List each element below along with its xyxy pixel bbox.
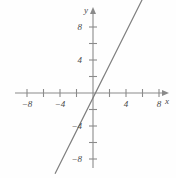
plot-area: −8 −4 4 8 8 4 −4 −8 y x bbox=[0, 0, 176, 178]
x-tick-label--4: −4 bbox=[55, 99, 66, 109]
x-axis-label: x bbox=[164, 96, 169, 106]
y-axis-arrow-icon bbox=[90, 7, 96, 14]
y-tick-label-4: 4 bbox=[78, 55, 83, 65]
x-tick-label-8: 8 bbox=[157, 99, 162, 109]
coordinate-graph: −8 −4 4 8 8 4 −4 −8 y x bbox=[0, 0, 176, 178]
x-tick-label--8: −8 bbox=[22, 99, 33, 109]
data-line-series-0 bbox=[55, 0, 150, 174]
x-tick-label-4: 4 bbox=[124, 99, 129, 109]
y-tick-label-8: 8 bbox=[78, 22, 83, 32]
y-axis-label: y bbox=[83, 5, 88, 15]
y-tick-label--8: −8 bbox=[71, 154, 82, 164]
y-tick-label--4: −4 bbox=[71, 121, 82, 131]
